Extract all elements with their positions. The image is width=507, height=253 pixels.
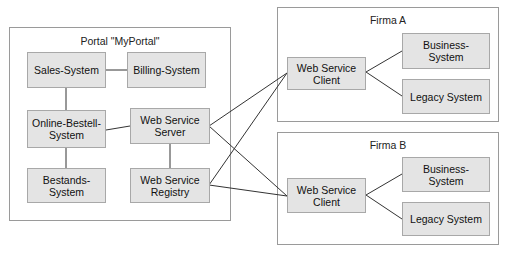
billing-system: Billing-System <box>127 52 206 88</box>
firma-b-web-service-client: Web Service Client <box>287 178 366 213</box>
online-bestell-system: Online-Bestell- System <box>27 110 106 148</box>
firma-b-business-system: Business- System <box>402 157 490 192</box>
firma-a-business-system: Business- System <box>402 33 490 69</box>
web-service-server: Web Service Server <box>130 108 210 144</box>
firma-b-legacy-system: Legacy System <box>402 202 490 236</box>
firma-a-web-service-client: Web Service Client <box>287 57 366 90</box>
firma-a-legacy-system: Legacy System <box>402 79 490 114</box>
web-service-registry: Web Service Registry <box>130 168 210 203</box>
sales-system: Sales-System <box>27 52 106 88</box>
bestands-system: Bestands- System <box>27 168 106 203</box>
